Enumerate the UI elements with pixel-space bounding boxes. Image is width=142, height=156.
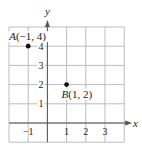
point-b xyxy=(64,82,69,87)
coordinate-plane: −11231234 A(−1, 4)B(1, 2) x y xyxy=(0,0,142,156)
x-tick-label: 1 xyxy=(64,126,69,137)
x-tick-label: −1 xyxy=(23,126,34,137)
x-tick-label: 3 xyxy=(103,126,108,137)
y-tick-label: 2 xyxy=(38,79,43,90)
y-tick-label: 3 xyxy=(38,60,43,71)
y-axis-arrow-icon xyxy=(45,20,50,27)
x-axis-arrow-icon xyxy=(125,121,132,126)
point-label-a: A(−1, 4) xyxy=(8,30,46,43)
point-label-b: B(1, 2) xyxy=(62,88,93,101)
y-tick-label: 1 xyxy=(38,98,43,109)
x-tick-label: 2 xyxy=(83,126,88,137)
point-a xyxy=(26,44,31,49)
y-tick-label: 4 xyxy=(38,41,43,52)
x-axis-label: x xyxy=(132,117,138,129)
y-axis-label: y xyxy=(44,5,50,17)
